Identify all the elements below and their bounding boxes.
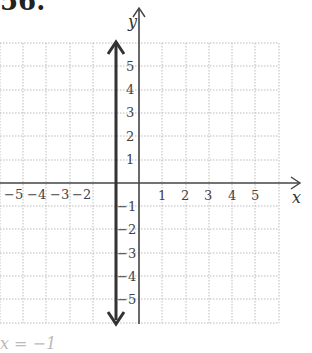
svg-text:5: 5 [126, 59, 134, 74]
svg-text:2: 2 [126, 129, 134, 144]
svg-text:−2: −2 [72, 187, 91, 202]
svg-text:1: 1 [158, 188, 166, 203]
svg-text:−3: −3 [50, 187, 69, 202]
svg-text:2: 2 [181, 188, 189, 203]
svg-text:−5: −5 [117, 292, 136, 307]
svg-text:−1: −1 [117, 199, 136, 214]
svg-text:3: 3 [204, 188, 212, 203]
y-ticks-positive: 5 4 3 2 1 [126, 59, 134, 167]
x-ticks-positive: 1 2 3 4 5 [158, 188, 259, 203]
x-axis-label: x [292, 188, 301, 207]
svg-text:−4: −4 [117, 269, 136, 284]
y-axis-label: y [127, 12, 138, 31]
svg-text:−5: −5 [4, 187, 23, 202]
svg-text:4: 4 [228, 188, 236, 203]
svg-text:4: 4 [126, 82, 134, 97]
x-ticks-negative: −5 −4 −3 −2 [4, 187, 91, 202]
equation-caption: x = −1 [0, 334, 56, 353]
svg-text:3: 3 [126, 105, 134, 120]
svg-text:−3: −3 [117, 246, 136, 261]
y-ticks-negative: −1 −2 −3 −4 −5 [117, 199, 136, 307]
svg-text:−2: −2 [117, 222, 136, 237]
svg-text:5: 5 [251, 188, 259, 203]
svg-text:−4: −4 [27, 187, 46, 202]
svg-text:1: 1 [126, 152, 134, 167]
